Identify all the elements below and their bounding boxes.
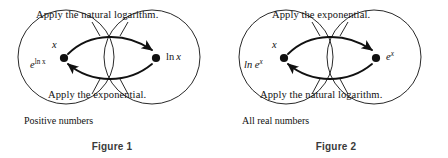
forward-arrow — [68, 37, 152, 54]
right-node-function: ln — [166, 51, 174, 62]
right-node-argument: x — [391, 50, 394, 58]
forward-arrow-label: Apply the natural logarithm. — [36, 10, 158, 21]
backward-arrow-label: Apply the exponential. — [48, 90, 146, 101]
left-element-dot — [280, 54, 288, 62]
left-node-base: ln e — [244, 59, 259, 70]
figure-1-panel: Apply the natural logarithm. Apply the e… — [0, 0, 224, 158]
left-element-dot — [60, 54, 68, 62]
left-node-top-label: x — [272, 40, 277, 51]
left-node-bottom-label: eln x — [30, 60, 46, 71]
backward-arrow-label: Apply the natural logarithm. — [260, 90, 382, 101]
left-node-bottom-label: ln ex — [244, 60, 263, 71]
forward-leader-left — [92, 22, 100, 36]
figure-2-panel: Apply the exponential. Apply the natural… — [224, 0, 448, 158]
forward-leader-left — [312, 22, 320, 36]
left-node-top-label: x — [52, 40, 57, 51]
figure-caption: Figure 1 — [0, 141, 224, 152]
forward-arrow-label: Apply the exponential. — [272, 10, 370, 21]
forward-leader-right — [340, 22, 348, 36]
right-node-label: ex — [386, 52, 394, 63]
backward-arrow — [288, 64, 372, 79]
left-node-exponent: ln x — [35, 58, 46, 66]
forward-leader-right — [120, 22, 128, 36]
right-node-argument: x — [176, 51, 181, 62]
set-caption: All real numbers — [242, 115, 309, 126]
right-node-label: lnx — [166, 52, 181, 63]
right-element-dot — [372, 54, 380, 62]
right-element-dot — [152, 54, 160, 62]
set-caption: Positive numbers — [24, 115, 93, 126]
left-node-exponent: x — [259, 58, 262, 66]
figure-pair-diagram: Apply the natural logarithm. Apply the e… — [0, 0, 448, 158]
figure-caption: Figure 2 — [224, 141, 448, 152]
